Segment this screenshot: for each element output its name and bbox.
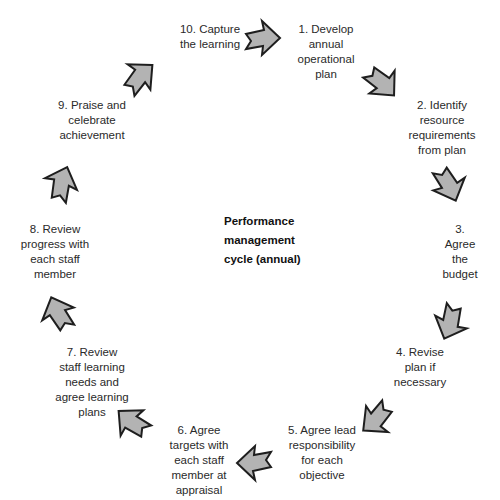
step-6-label: 6. Agree targets with each staff member … bbox=[170, 423, 229, 498]
step-5-label: 5. Agree lead responsibility for each ob… bbox=[288, 423, 356, 483]
arrow-up-right-icon bbox=[116, 52, 164, 100]
step-2-label: 2. Identify resource requirements from p… bbox=[408, 98, 475, 158]
step-9-label: 9. Praise and celebrate achievement bbox=[58, 98, 126, 143]
arrow-left-icon bbox=[237, 446, 271, 480]
arrow-down-right-icon bbox=[359, 59, 407, 107]
step-1-label: 1. Develop annual operational plan bbox=[298, 22, 355, 82]
arrow-up-icon bbox=[35, 291, 79, 335]
performance-cycle-diagram: 10. Capture the learning 1. Develop annu… bbox=[0, 0, 500, 500]
step-3-label: 3. Agree the budget bbox=[440, 222, 480, 282]
arrow-down-left-icon bbox=[352, 396, 400, 444]
step-8-label: 8. Review progress with each staff membe… bbox=[21, 222, 89, 282]
step-7-label: 7. Review staff learning needs and agree… bbox=[55, 345, 129, 420]
arrow-up-icon bbox=[40, 161, 84, 205]
step-10-label: 10. Capture the learning bbox=[180, 22, 240, 52]
diagram-title: Performance management cycle (annual) bbox=[224, 212, 301, 269]
step-4-label: 4. Revise plan if necessary bbox=[394, 345, 446, 390]
arrow-down-icon bbox=[428, 301, 472, 345]
arrow-down-right-icon bbox=[427, 163, 471, 207]
arrow-right-icon bbox=[246, 21, 280, 55]
